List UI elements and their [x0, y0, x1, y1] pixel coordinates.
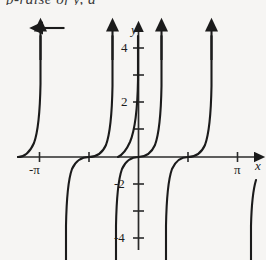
figure-container: p-raise of y, a	[0, 0, 266, 260]
y-tick-label-2: 2	[121, 94, 128, 110]
tangent-branch-5-lower	[251, 180, 256, 260]
y-tick-label-neg-4: -4	[114, 230, 125, 246]
x-axis-label: x	[255, 158, 261, 174]
y-tick-label-4: 4	[121, 40, 128, 56]
x-tick-label-pi: π	[234, 162, 241, 178]
tangent-branch-2	[66, 36, 113, 260]
y-axis-label: y	[131, 22, 137, 38]
tangent-branch-1	[18, 36, 41, 157]
tangent-graph-svg	[0, 0, 266, 260]
y-tick-label-neg-2: -2	[114, 176, 125, 192]
x-tick-label-neg-pi: -π	[29, 162, 40, 178]
tangent-branch-4	[166, 36, 212, 260]
